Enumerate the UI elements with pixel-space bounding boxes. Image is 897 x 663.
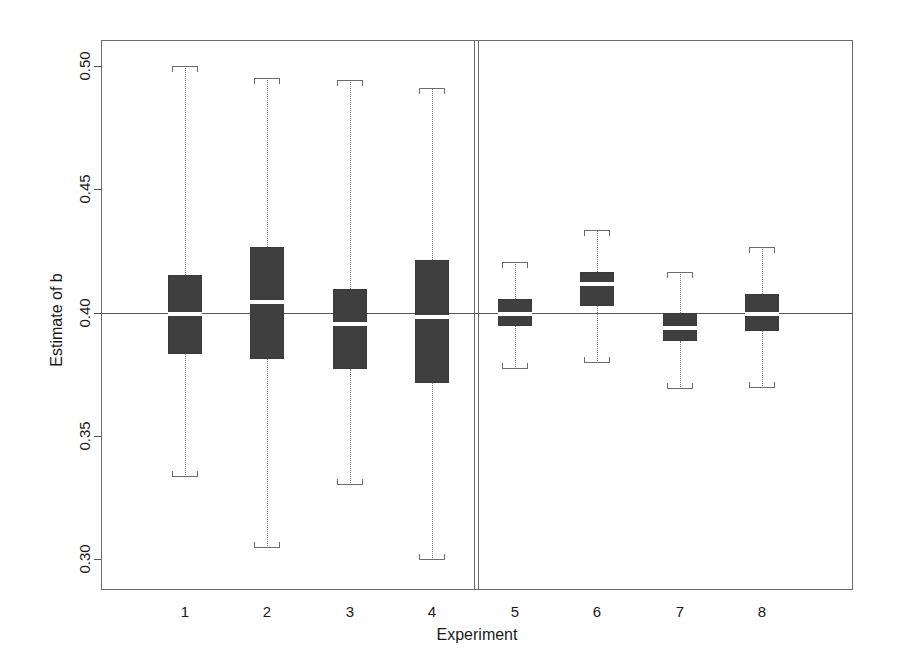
whisker-cap-lower [749,382,775,388]
whisker-cap-upper [254,78,280,84]
median-line [663,326,697,330]
whisker-lower [762,331,763,388]
y-tick-label: 0.35 [76,401,94,471]
whisker-upper [432,88,433,260]
median-line [580,282,614,286]
whisker-cap-lower [584,357,610,363]
whisker-upper [597,230,598,272]
whisker-cap-upper [419,88,445,94]
whisker-cap-lower [172,471,198,477]
panel-divider-line-1 [474,40,475,590]
box-iqr [415,260,449,383]
whisker-cap-lower [254,542,280,548]
median-line [250,300,284,304]
median-line [333,322,367,326]
whisker-lower [267,359,268,548]
reference-line-0-40 [101,313,853,314]
whisker-lower [597,306,598,362]
whisker-lower [432,383,433,560]
whisker-lower [680,341,681,389]
whisker-lower [185,354,186,476]
y-tick-label: 0.40 [76,278,94,348]
whisker-cap-upper [667,272,693,278]
x-tick-label-1: 1 [165,602,205,622]
median-line [415,315,449,319]
y-tick-mark [94,189,101,190]
box-iqr [333,289,367,369]
median-line [745,312,779,316]
whisker-cap-lower [667,383,693,389]
whisker-cap-upper [337,80,363,86]
plot-border [101,40,853,590]
whisker-upper [185,66,186,275]
whisker-upper [680,272,681,313]
x-tick-label-7: 7 [660,602,700,622]
y-tick-label: 0.30 [76,524,94,594]
whisker-cap-lower [502,363,528,369]
whisker-lower [350,369,351,486]
whisker-upper [350,80,351,289]
panel-divider-line-2 [478,40,479,590]
whisker-upper [267,78,268,246]
whisker-cap-upper [172,66,198,72]
y-tick-label: 0.45 [76,154,94,224]
x-tick-label-8: 8 [742,602,782,622]
box-iqr [580,272,614,306]
y-tick-mark [94,313,101,314]
y-axis-title: Estimate of b [46,40,68,600]
x-tick-label-5: 5 [495,602,535,622]
whisker-cap-upper [749,247,775,253]
whisker-cap-upper [502,262,528,268]
whisker-cap-lower [337,479,363,485]
whisker-cap-lower [419,554,445,560]
y-tick-mark [94,66,101,67]
y-tick-label: 0.50 [76,31,94,101]
x-axis-title: Experiment [101,626,853,644]
whisker-upper [762,247,763,294]
median-line [168,312,202,316]
median-line [498,312,532,316]
x-tick-label-4: 4 [412,602,452,622]
y-tick-mark [94,436,101,437]
whisker-cap-upper [584,230,610,236]
boxplot-figure: Estimate of b Experiment 0.300.350.400.4… [0,0,897,663]
x-tick-label-2: 2 [247,602,287,622]
x-tick-label-6: 6 [577,602,617,622]
y-tick-mark [94,559,101,560]
x-tick-label-3: 3 [330,602,370,622]
